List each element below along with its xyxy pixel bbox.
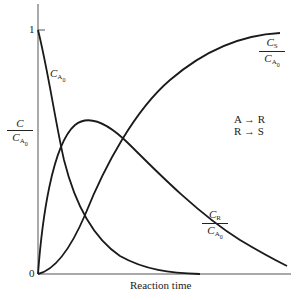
- y-axis-label: C CA0: [7, 118, 33, 147]
- y-axis-label-num: C: [7, 118, 33, 131]
- y-tick-label-zero: 0: [29, 268, 35, 279]
- cs-curve-label: CS CA0: [259, 37, 285, 68]
- y-axis-label-den: CA0: [7, 131, 33, 147]
- reaction-annotation-1: A → R: [234, 114, 265, 125]
- chart-canvas: [0, 0, 299, 300]
- reaction-annotation-2: R → S: [234, 126, 264, 137]
- y-tick-label-one: 1: [29, 24, 35, 35]
- curve-ca: [38, 30, 200, 274]
- x-axis-label: Reaction time: [130, 280, 191, 291]
- cr-curve-label: CR CA0: [202, 209, 228, 240]
- ca-curve-label: CA0: [50, 68, 65, 83]
- curve-cs: [38, 33, 280, 274]
